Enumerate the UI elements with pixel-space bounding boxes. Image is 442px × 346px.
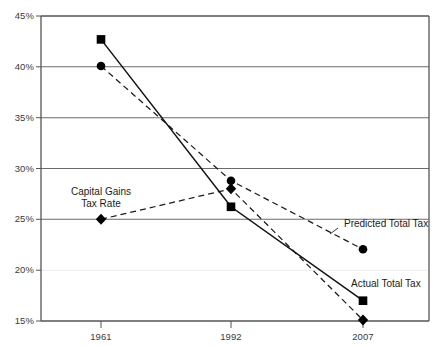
- data-point-predicted-1992: [227, 176, 236, 185]
- y-tick-label-20: 20%: [2, 264, 34, 275]
- x-tick-label-1992: 1992: [201, 331, 261, 342]
- data-point-actual-1961: [97, 35, 106, 44]
- y-tick-label-40: 40%: [2, 61, 34, 72]
- data-point-actual-2007: [359, 296, 368, 305]
- y-tick-label-15: 15%: [2, 315, 34, 326]
- annotation-predicted-total-tax: Predicted Total Tax: [344, 218, 428, 230]
- annotation-actual-total-tax: Actual Total Tax: [351, 278, 421, 290]
- x-axis-ticks: [101, 321, 363, 328]
- data-point-actual-1992: [227, 203, 236, 212]
- x-tick-label-1961: 1961: [71, 331, 131, 342]
- y-axis-ticks: [36, 16, 41, 321]
- annotation-capital-gains-tax-rate-line1: Capital Gains: [51, 186, 151, 198]
- y-tick-label-45: 45%: [2, 10, 34, 21]
- y-tick-label-30: 30%: [2, 163, 34, 174]
- data-point-predicted-1961: [97, 62, 106, 71]
- chart-canvas: [0, 0, 442, 346]
- y-tick-label-25: 25%: [2, 213, 34, 224]
- annotation-capital-gains-tax-rate-line2: Tax Rate: [51, 198, 151, 210]
- chart-container: 45% 40% 35% 30% 25% 20% 15% 1961 1992 20…: [0, 0, 442, 346]
- y-tick-label-35: 35%: [2, 112, 34, 123]
- x-tick-label-2007: 2007: [333, 331, 393, 342]
- data-point-predicted-2007: [359, 245, 368, 254]
